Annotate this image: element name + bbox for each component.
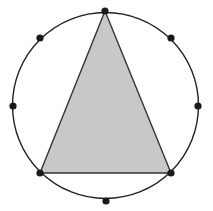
point-left xyxy=(9,102,16,109)
point-upper-right xyxy=(167,34,174,41)
point-lower-right xyxy=(167,169,174,176)
point-upper-left xyxy=(36,34,43,41)
point-bottom xyxy=(102,197,109,204)
shaded-triangle xyxy=(40,11,171,173)
inscribed-triangle-diagram xyxy=(0,0,213,211)
point-lower-left xyxy=(36,169,43,176)
point-right xyxy=(194,102,201,109)
point-top xyxy=(101,7,108,14)
